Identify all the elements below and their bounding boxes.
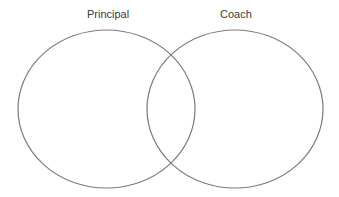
principal-label: Principal (87, 8, 129, 21)
principal-ellipse (18, 30, 195, 188)
coach-label: Coach (220, 8, 252, 21)
venn-diagram (0, 0, 339, 197)
coach-ellipse (147, 30, 323, 188)
